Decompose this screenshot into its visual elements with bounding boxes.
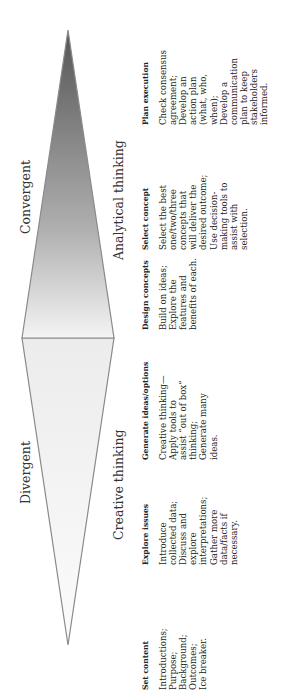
column-text: Generate many <box>198 362 208 460</box>
column-text: selection. <box>239 175 249 250</box>
column-text: Explore the <box>168 258 178 330</box>
column-text: Use decision- <box>209 175 219 250</box>
diagram-stage: Divergent Convergent Creative thinking A… <box>0 0 294 700</box>
column-text: will deliver the <box>188 175 198 250</box>
column-text: collected data; <box>168 497 178 565</box>
column-text: Background; <box>178 628 188 690</box>
divergent-label: Divergent <box>18 441 33 504</box>
column-text: thinking; <box>188 362 198 460</box>
column-text: action plan <box>188 50 198 125</box>
column-set-content: Set content Introductions; Purpose; Back… <box>141 628 209 690</box>
column-plan-execution: Plan execution Check consensus agreement… <box>141 50 269 125</box>
divergent-triangle <box>22 338 114 645</box>
column-header: Generate ideas/options <box>141 362 151 460</box>
column-text: explore <box>188 497 198 565</box>
column-header: Select concept <box>141 175 151 250</box>
column-text: Ice breaker. <box>198 628 208 690</box>
column-text: interpretations; <box>198 497 208 565</box>
convergent-label: Convergent <box>18 160 33 234</box>
column-text: plan to keep <box>239 50 249 125</box>
convergent-triangle <box>22 30 114 338</box>
column-text: Develop a <box>219 50 229 125</box>
column-text: Creative thinking— <box>158 362 168 460</box>
column-text: assist “out of box” <box>178 362 188 460</box>
analytical-thinking-label: Analytical thinking <box>111 140 126 260</box>
column-text: one/two/three <box>168 175 178 250</box>
column-text: data/facts if <box>219 497 229 565</box>
column-text: Purpose; <box>168 628 178 690</box>
divergent-convergent-diamond <box>0 0 140 700</box>
column-text: making tools to <box>219 175 229 250</box>
column-text: assist with <box>229 175 239 250</box>
column-text: agreement; <box>168 50 178 125</box>
column-text: ideas. <box>209 362 219 460</box>
column-design-concepts: Design concepts Build on ideas; Explore … <box>141 258 198 330</box>
column-text: Check consensus <box>158 50 168 125</box>
column-text: Discuss and <box>178 497 188 565</box>
column-text: informed. <box>259 50 269 125</box>
column-select-concept: Select concept Select the best one/two/t… <box>141 175 249 250</box>
column-text: desired outcome; <box>198 175 208 250</box>
column-text: stakeholders <box>249 50 259 125</box>
column-header: Explore issues <box>141 497 151 565</box>
column-header: Design concepts <box>141 258 151 330</box>
column-text: concepts that <box>178 175 188 250</box>
column-header: Plan execution <box>141 50 151 125</box>
column-text: Outcomes; <box>188 628 198 690</box>
column-text: necessary. <box>229 497 239 565</box>
column-text: Gather more <box>209 497 219 565</box>
column-text: Introductions; <box>158 628 168 690</box>
column-text: (what, who, <box>198 50 208 125</box>
column-text: features and <box>178 258 188 330</box>
column-text: Introduce <box>158 497 168 565</box>
column-header: Set content <box>141 628 151 690</box>
column-explore-issues: Explore issues Introduce collected data;… <box>141 497 239 565</box>
column-text: Apply tools to <box>168 362 178 460</box>
column-text: when); <box>209 50 219 125</box>
column-text: Select the best <box>158 175 168 250</box>
creative-thinking-label: Creative thinking <box>111 429 126 540</box>
column-text: Build on ideas; <box>158 258 168 330</box>
column-text: communication <box>229 50 239 125</box>
column-generate-ideas: Generate ideas/options Creative thinking… <box>141 362 219 460</box>
column-text: benefits of each. <box>188 258 198 330</box>
column-text: Develop an <box>178 50 188 125</box>
